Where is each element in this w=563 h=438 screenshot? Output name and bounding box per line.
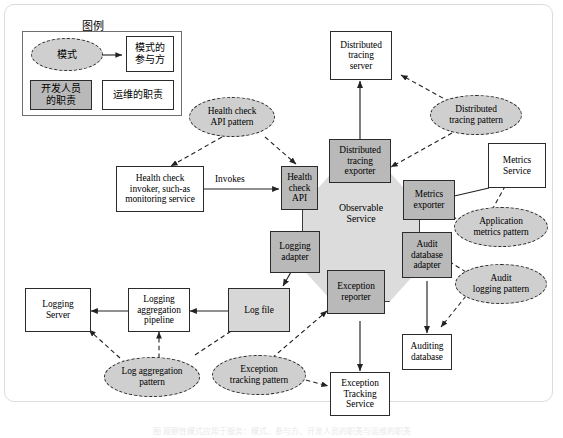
adapter-health-check-api-label: Health check API	[287, 172, 312, 204]
adapter-logging-adapter[interactable]: Logging adapter	[270, 231, 320, 273]
pattern-audit-logging-label: Audit logging pattern	[473, 273, 529, 294]
box-logging-aggregation-pipeline-label: Logging aggregation pipeline	[137, 294, 181, 326]
legend-dev-label: 开发人员 的职责	[41, 83, 81, 107]
pattern-health-check-api-label: Health check API pattern	[208, 106, 257, 127]
edge-label-invokes: Invokes	[215, 174, 245, 184]
box-metrics-service[interactable]: Metrics Service	[488, 143, 546, 188]
box-log-file[interactable]: Log file	[228, 288, 290, 332]
observable-service-label: Observable Service	[339, 203, 383, 225]
box-logging-server-label: Logging Server	[42, 299, 73, 320]
adapter-health-check-api[interactable]: Health check API	[281, 166, 318, 210]
adapter-logging-adapter-label: Logging adapter	[279, 241, 310, 262]
legend-ops-label: 运维的职责	[113, 89, 163, 101]
legend-ops-swatch: 运维的职责	[102, 80, 174, 110]
box-exception-tracking-service[interactable]: Exception Tracking Service	[330, 372, 390, 416]
pattern-application-metrics-label: Application metrics pattern	[473, 216, 528, 237]
pattern-log-aggregation[interactable]: Log aggregation pattern	[104, 357, 200, 397]
box-exception-tracking-service-label: Exception Tracking Service	[341, 378, 379, 410]
diagram-canvas: 图例 模式 模式的 参与方 开发人员 的职责 运维的职责 Observable …	[0, 0, 563, 438]
adapter-metrics-exporter[interactable]: Metrics exporter	[403, 180, 455, 220]
pattern-exception-tracking-label: Exception tracking pattern	[230, 364, 288, 385]
adapter-audit-database-adapter[interactable]: Audit database adapter	[402, 232, 452, 278]
pattern-distributed-tracing[interactable]: Distributed tracing pattern	[430, 95, 522, 135]
adapter-audit-database-adapter-label: Audit database adapter	[411, 239, 443, 271]
adapter-exception-reporter-label: Exception reporter	[337, 281, 375, 302]
pattern-application-metrics[interactable]: Application metrics pattern	[454, 207, 548, 247]
legend-participant-swatch: 模式的 参与方	[126, 36, 174, 72]
box-auditing-database[interactable]: Auditing database	[402, 334, 452, 370]
pattern-health-check-api[interactable]: Health check API pattern	[189, 97, 275, 137]
box-logging-aggregation-pipeline[interactable]: Logging aggregation pipeline	[128, 288, 190, 332]
figure-caption: 图 观察性模式应用于服务：模式、参与方、开发人员的职责与运维的职责	[0, 425, 563, 436]
legend-dev-swatch: 开发人员 的职责	[30, 80, 92, 110]
pattern-exception-tracking[interactable]: Exception tracking pattern	[212, 355, 306, 395]
adapter-distributed-tracing-exporter-label: Distributed tracing exporter	[339, 145, 381, 177]
legend-pattern-swatch: 模式	[31, 38, 103, 71]
box-distributed-tracing-server-label: Distributed tracing server	[340, 40, 382, 72]
box-distributed-tracing-server[interactable]: Distributed tracing server	[330, 31, 392, 80]
pattern-audit-logging[interactable]: Audit logging pattern	[455, 264, 547, 304]
box-logging-server[interactable]: Logging Server	[25, 288, 91, 332]
box-health-check-invoker[interactable]: Health check invoker, such-as monitoring…	[116, 166, 204, 212]
adapter-exception-reporter[interactable]: Exception reporter	[327, 270, 385, 314]
box-log-file-label: Log file	[244, 305, 274, 316]
legend-connector	[100, 44, 130, 66]
legend-participant-label: 模式的 参与方	[135, 42, 165, 66]
adapter-metrics-exporter-label: Metrics exporter	[414, 189, 445, 210]
pattern-distributed-tracing-label: Distributed tracing pattern	[449, 104, 503, 125]
adapter-distributed-tracing-exporter[interactable]: Distributed tracing exporter	[329, 139, 391, 183]
box-metrics-service-label: Metrics Service	[503, 155, 531, 176]
box-health-check-invoker-label: Health check invoker, such-as monitoring…	[125, 173, 195, 205]
legend-pattern-label: 模式	[57, 49, 77, 61]
box-auditing-database-label: Auditing database	[411, 341, 444, 362]
pattern-log-aggregation-label: Log aggregation pattern	[122, 366, 183, 387]
